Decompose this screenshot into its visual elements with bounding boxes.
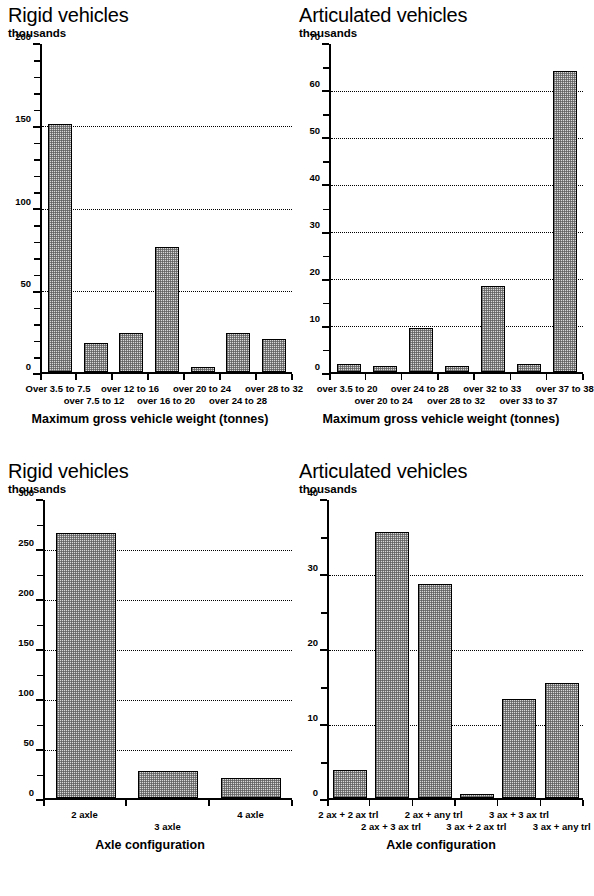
x-axis-tick [369,800,371,806]
bar-slot [367,44,403,372]
x-axis-category-label: over 12 to 16 [101,383,159,394]
y-axis-tick-label: 0 [26,361,31,370]
bar[interactable] [333,770,367,798]
y-axis-tick [322,279,329,281]
x-axis-tick [255,374,257,380]
x-axis-category-labels: 2 axle3 axle4 axle [43,809,292,835]
x-axis-tick [510,374,512,380]
bar[interactable] [337,364,361,372]
y-axis-tick-label: 10 [307,712,318,721]
chart-title: Rigid vehicles [8,4,292,26]
bar[interactable] [119,333,143,372]
y-axis-tick [322,326,329,328]
y-axis-tick [36,699,43,701]
bar-slot [331,44,367,372]
bar[interactable] [375,532,409,798]
bar-slot [210,500,292,798]
y-axis-unit-label: thousands [299,483,583,496]
y-axis-tick-label: 0 [313,787,318,796]
y-axis-tick [33,373,40,375]
chart-panel-rigid-axle: Rigid vehiclesthousands05010015020025030… [8,460,292,852]
x-axis-tick [473,374,475,380]
y-axis-line [43,500,45,800]
x-axis-tick [327,800,329,806]
x-axis-category-label: 3 axle [154,821,180,832]
x-axis-category-label: over 16 to 20 [137,395,195,406]
y-axis-tick [322,373,329,375]
x-axis-tick [582,800,584,806]
x-axis-tick [43,800,45,806]
bar[interactable] [545,683,579,798]
bar[interactable] [553,71,577,372]
x-axis-category-label: over 24 to 28 [391,383,449,394]
chart-title: Rigid vehicles [8,460,292,482]
bar-slot [475,44,511,372]
x-axis-tick [291,800,293,806]
x-axis-title: Axle configuration [299,838,583,852]
y-axis-tick-label: 100 [18,687,34,696]
y-axis-tick [33,208,40,210]
bar[interactable] [418,584,452,798]
y-axis-tick-label: 0 [315,361,320,370]
bar[interactable] [56,533,116,798]
x-axis-tick [546,374,548,380]
y-axis-unit-label: thousands [8,27,292,40]
y-axis-tick [320,574,327,576]
x-axis-category-label: 2 axle [71,809,97,820]
x-axis-line [43,798,292,800]
x-axis-category-label: over 33 to 37 [500,395,558,406]
bar[interactable] [409,328,433,373]
bar-slot [414,500,456,798]
x-axis-tick [111,374,113,380]
y-axis-tick-label: 30 [307,562,318,571]
bar[interactable] [138,771,198,798]
bar-slot [371,500,413,798]
bar[interactable] [221,778,281,798]
x-axis-tick [208,800,210,806]
y-axis-line [327,500,329,800]
bar-slot [149,44,185,372]
x-axis-tick [365,374,367,380]
y-axis-tick-label: 150 [15,114,31,123]
y-axis-tick [322,137,329,139]
bar[interactable] [517,364,541,372]
bar-slot [498,500,540,798]
y-axis-tick [322,90,329,92]
bar-slot [78,44,114,372]
plot-area: 0501001502002503002 axle3 axle4 axle [43,500,292,835]
bar[interactable] [481,286,505,372]
bar[interactable] [155,247,179,372]
x-axis-tick [291,374,293,380]
y-axis-tick-label: 30 [309,220,320,229]
x-axis-tick [125,800,127,806]
bar-slot [42,44,78,372]
bar[interactable] [262,339,286,372]
bar[interactable] [48,124,72,372]
y-axis-tick-label: 50 [20,279,31,288]
bar-slot [127,500,209,798]
plot-area: 0102030402 ax + 2 ax trl2 ax + 3 ax trl2… [327,500,583,835]
bar-slot [185,44,221,372]
y-axis-tick [33,126,40,128]
x-axis-tick [582,374,584,380]
y-axis-tick-label: 10 [309,314,320,323]
y-axis-line [40,44,42,374]
bar[interactable] [502,699,536,798]
y-axis-unit-label: thousands [8,483,292,496]
bar-series [329,500,583,798]
bar-slot [45,500,127,798]
y-axis-tick [320,724,327,726]
bar[interactable] [84,343,108,372]
bar[interactable] [226,333,250,372]
x-axis-title: Maximum gross vehicle weight (tonnes) [299,412,583,426]
y-axis-tick [33,43,40,45]
y-axis-tick-label: 60 [309,78,320,87]
y-axis-tick [36,799,43,801]
x-axis-tick [412,800,414,806]
x-axis-category-label: over 28 to 32 [427,395,485,406]
y-axis-tick [320,799,327,801]
bar-slot [221,44,257,372]
y-axis-unit-label: thousands [299,27,583,40]
x-axis-category-label: 3 ax + 2 ax trl [446,821,506,832]
chart-panel-rigid-weight: Rigid vehiclesthousands050100150200Over … [8,4,292,426]
